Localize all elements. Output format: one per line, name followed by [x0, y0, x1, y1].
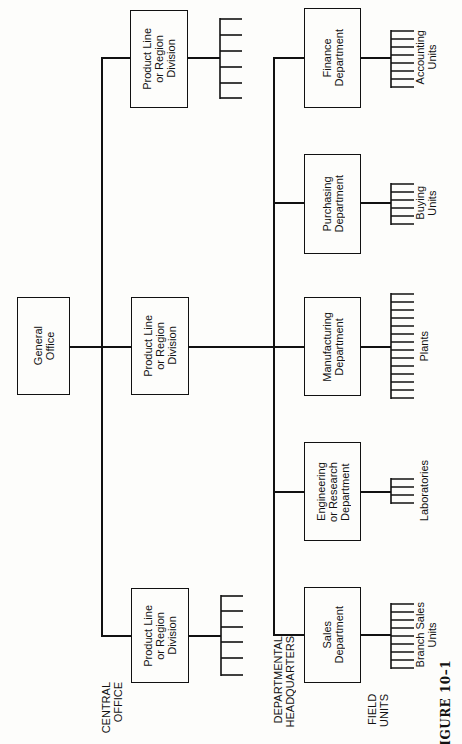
division-units-comb-bottom	[220, 594, 246, 678]
central-office-level-label: CENTRAL OFFICE	[100, 682, 124, 737]
department-label: Purchasing Department	[321, 175, 345, 232]
connector-bottom-division	[101, 635, 131, 637]
connector-bottom-division-units	[188, 635, 221, 637]
connector-finance	[273, 57, 304, 59]
division-box-top: Product Line or Region Division	[130, 10, 188, 108]
figure-label: FIGURE 10–1	[440, 660, 452, 744]
division-label: Product Line or Region Division	[142, 605, 178, 667]
general-office-box: General Office	[17, 297, 70, 395]
general-office-label: General Office	[32, 326, 56, 365]
department-label: Sales Department	[321, 606, 345, 663]
division-units-comb-top	[219, 17, 245, 101]
connector-purchasing	[273, 202, 304, 204]
accounting-units-comb	[390, 29, 416, 89]
connector-manufacturing-units	[361, 346, 391, 348]
buying-units-comb	[390, 182, 416, 226]
connector-engineering	[273, 491, 304, 493]
connector-sales-units	[361, 634, 391, 636]
division-label: Product Line or Region Division	[142, 315, 178, 377]
field-units-level-label: FIELD UNITS	[366, 694, 390, 731]
branch-sales-units-comb	[390, 602, 416, 670]
branch-sales-units-label: Branch Sales Units	[414, 600, 438, 670]
connector-purchasing-units	[361, 202, 391, 204]
connector-top-division	[101, 57, 131, 59]
department-label: Engineering or Research Department	[315, 462, 351, 522]
manufacturing-department-box: Manufacturing Department	[304, 297, 361, 396]
purchasing-department-box: Purchasing Department	[304, 154, 361, 254]
sales-department-box: Sales Department	[304, 587, 361, 683]
division-box-bottom: Product Line or Region Division	[131, 588, 189, 683]
connector-finance-units	[361, 57, 391, 59]
connector-engineering-units	[361, 491, 391, 493]
department-label: Finance Department	[321, 29, 345, 86]
connector-middle-division-to-dept-spine	[188, 346, 304, 348]
departmental-headquarters-level-label: DEPARTMENTAL HEADQUARTERS	[272, 636, 296, 731]
department-spine	[273, 57, 275, 636]
plants-comb	[390, 292, 416, 400]
buying-units-label: Buying Units	[414, 172, 438, 234]
division-label: Product Line or Region Division	[141, 28, 177, 90]
department-label: Manufacturing Department	[321, 312, 345, 382]
laboratories-comb	[390, 477, 416, 505]
finance-department-box: Finance Department	[304, 8, 361, 108]
division-box-middle: Product Line or Region Division	[131, 297, 189, 395]
accounting-units-label: Accounting Units	[414, 22, 438, 92]
laboratories-label: Laboratories	[418, 460, 430, 522]
engineering-department-box: Engineering or Research Department	[304, 442, 361, 541]
connector-top-division-units	[187, 57, 220, 59]
division-spine	[101, 57, 103, 637]
plants-label: Plants	[418, 310, 430, 382]
